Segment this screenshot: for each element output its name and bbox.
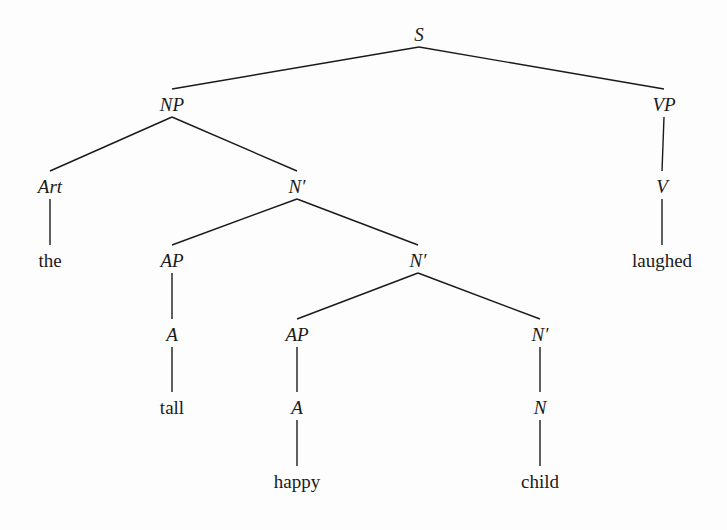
- node-vp: VP: [652, 94, 676, 115]
- word-child: child: [521, 471, 559, 492]
- edge-np-nb1: [172, 117, 297, 171]
- edge-nb1-nb2: [297, 199, 418, 245]
- tree-edges: [50, 47, 664, 466]
- node-nb2: N′: [409, 250, 428, 271]
- node-a2: A: [289, 397, 303, 418]
- node-a1: A: [164, 324, 178, 345]
- node-s: S: [414, 24, 424, 45]
- edge-vp-v: [662, 117, 664, 171]
- node-art: Art: [36, 176, 63, 197]
- edge-s-vp: [419, 47, 664, 89]
- edge-np-art: [50, 117, 172, 171]
- node-ap2: AP: [283, 324, 309, 345]
- word-laughed: laughed: [632, 250, 693, 271]
- node-nb3: N′: [531, 324, 550, 345]
- edge-s-np: [172, 47, 419, 89]
- edge-nb2-ap2: [297, 273, 418, 319]
- node-n: N: [533, 397, 548, 418]
- node-v: V: [656, 176, 670, 197]
- node-ap1: AP: [158, 250, 184, 271]
- word-tall: tall: [160, 397, 184, 418]
- word-happy: happy: [274, 471, 321, 492]
- node-nb1: N′: [288, 176, 307, 197]
- edge-nb1-ap1: [172, 199, 297, 245]
- node-np: NP: [159, 94, 185, 115]
- syntax-tree: SNPVPArtN′VtheAPN′laughedAAPN′tallANhapp…: [0, 0, 727, 530]
- word-the: the: [38, 250, 61, 271]
- tree-labels: SNPVPArtN′VtheAPN′laughedAAPN′tallANhapp…: [36, 24, 693, 492]
- edge-nb2-nb3: [418, 273, 540, 319]
